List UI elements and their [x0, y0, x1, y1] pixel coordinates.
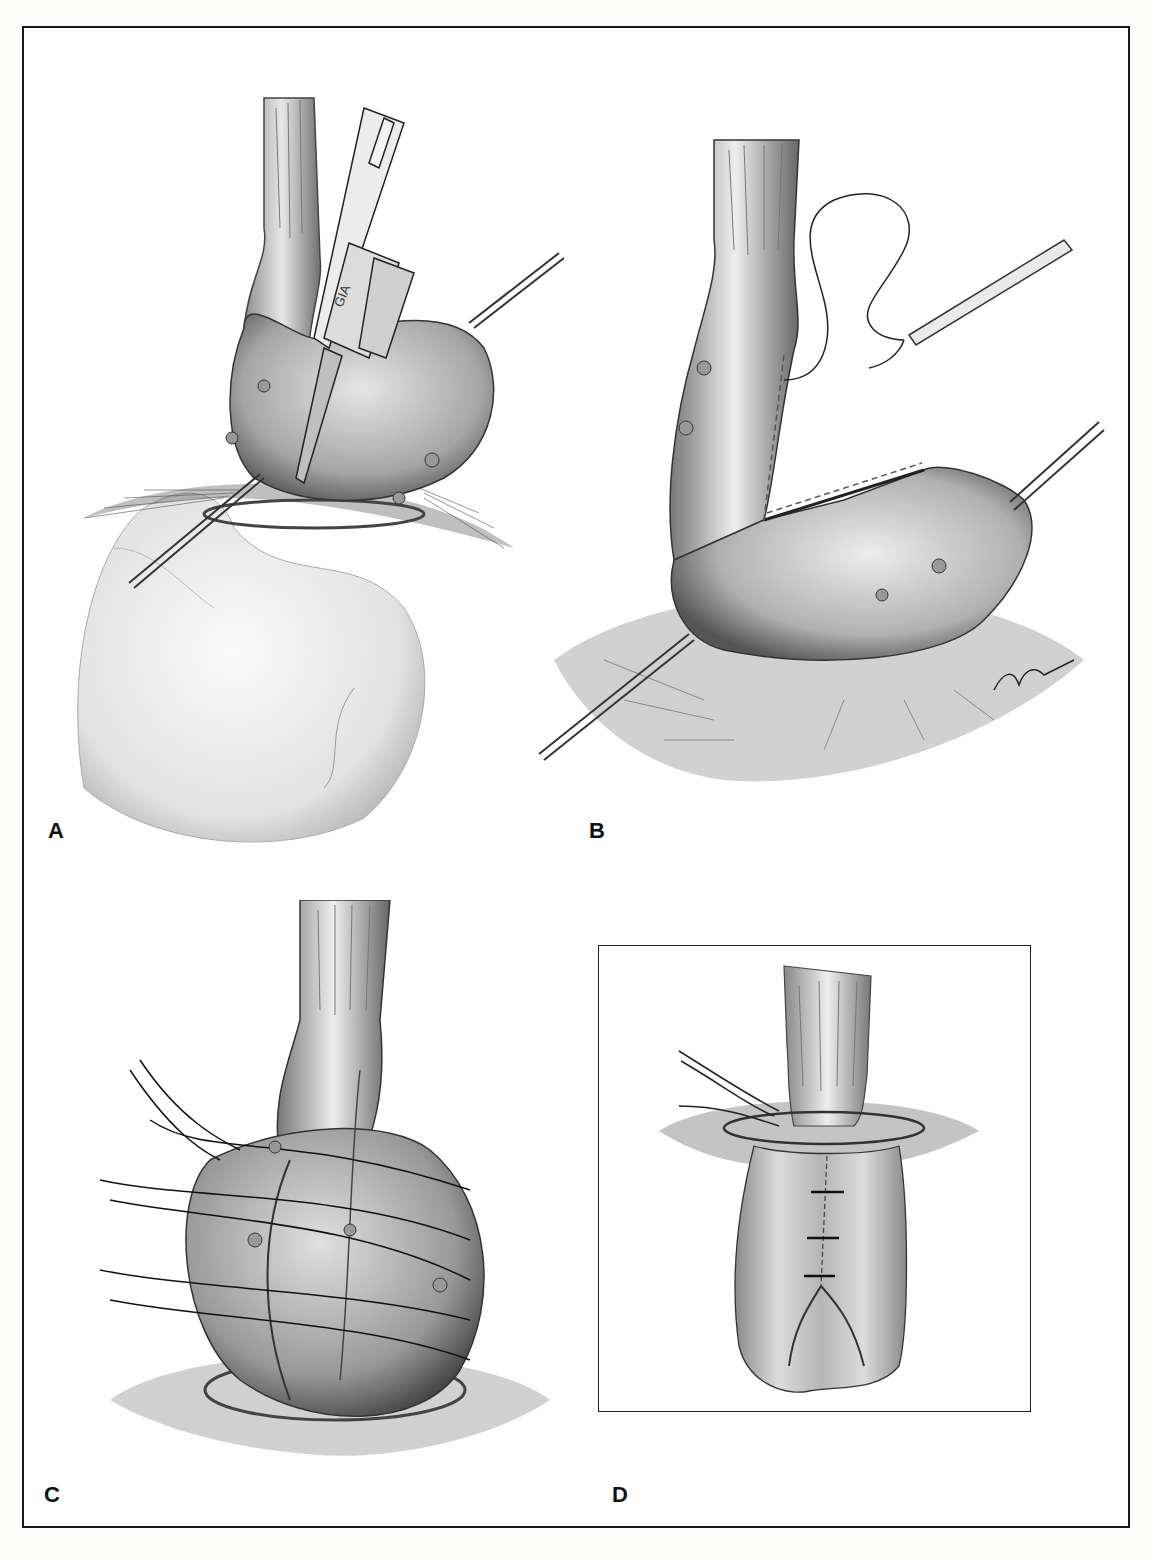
panel-d-illustration	[599, 946, 1029, 1410]
panel-label-b: B	[589, 818, 605, 844]
panel-a-illustration: GIA	[24, 28, 564, 868]
panel-label-a: A	[48, 818, 64, 844]
panel-label-c: C	[44, 1482, 60, 1508]
panel-label-d: D	[612, 1482, 628, 1508]
panel-c-illustration	[90, 900, 560, 1460]
panel-c	[90, 900, 560, 1460]
panel-b	[524, 100, 1114, 820]
panel-a: GIA	[24, 28, 564, 868]
panel-b-illustration	[524, 100, 1114, 820]
panel-d-inset-box	[598, 945, 1031, 1412]
